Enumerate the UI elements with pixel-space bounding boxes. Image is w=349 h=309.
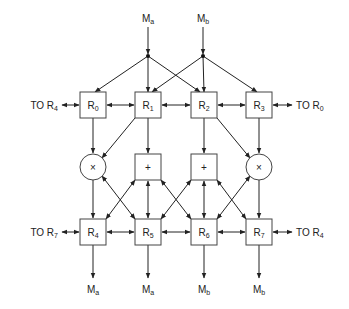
side-label-bottom-left: TO R7 bbox=[30, 227, 58, 239]
output-label-3: Mb bbox=[253, 284, 265, 296]
side-label-top-left: TO R4 bbox=[30, 100, 58, 112]
output-label-2: Mb bbox=[198, 284, 210, 296]
output-label-0: Ma bbox=[87, 284, 99, 296]
cross-mul-r6 bbox=[217, 176, 250, 219]
edge-r2-to-mul bbox=[217, 118, 250, 158]
edge-mb-to-r3 bbox=[203, 56, 257, 92]
cross-mul-r5 bbox=[102, 176, 135, 219]
mul-left-multiplier-symbol: × bbox=[90, 162, 96, 173]
edge-ma-to-r2 bbox=[148, 56, 200, 92]
add-right-adder-symbol: + bbox=[201, 162, 207, 173]
input-label-ma: Ma bbox=[142, 13, 154, 25]
labels: MaMbMaMaMbMbR0R1R2R3R4R5R6R7×++×TO R4TO … bbox=[30, 13, 323, 296]
add-left-adder-symbol: + bbox=[145, 162, 151, 173]
mul-right-multiplier-symbol: × bbox=[256, 162, 262, 173]
side-label-bottom-right: TO R4 bbox=[296, 227, 324, 239]
junction-dot-ma bbox=[146, 54, 150, 58]
edge-ma-to-r0 bbox=[95, 56, 148, 92]
input-label-mb: Mb bbox=[197, 13, 209, 25]
junction-dot-mb bbox=[201, 54, 205, 58]
side-label-top-right: TO R0 bbox=[296, 100, 324, 112]
edge-mb-to-r2 bbox=[203, 56, 204, 92]
edge-r1-to-mul bbox=[102, 118, 135, 158]
edge-mb-to-r1 bbox=[152, 56, 203, 92]
output-label-1: Ma bbox=[142, 284, 154, 296]
register-network-diagram: MaMbMaMaMbMbR0R1R2R3R4R5R6R7×++×TO R4TO … bbox=[0, 0, 349, 309]
